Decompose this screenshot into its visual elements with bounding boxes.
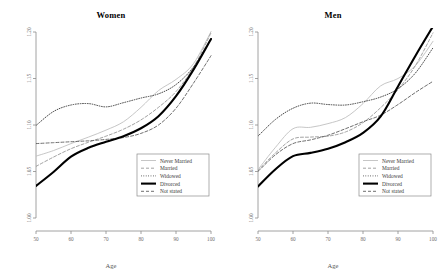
legend-label: Widowed bbox=[382, 173, 403, 179]
legend-label: Never Married bbox=[382, 158, 414, 164]
legend-label: Not stated bbox=[160, 188, 182, 194]
series-line bbox=[36, 56, 211, 144]
series-line bbox=[258, 33, 433, 171]
x-tick-label: 90 bbox=[173, 236, 179, 242]
legend-label: Married bbox=[160, 165, 178, 171]
x-tick-label: 50 bbox=[255, 236, 261, 242]
y-tick-label: 1.05 bbox=[248, 167, 254, 176]
legend-label: Widowed bbox=[160, 173, 181, 179]
legend-label: Married bbox=[382, 165, 400, 171]
y-axis: 1.001.051.101.151.20 bbox=[26, 27, 36, 222]
x-tick-label: 100 bbox=[207, 236, 215, 242]
x-tick-label: 60 bbox=[68, 236, 74, 242]
y-tick-label: 1.15 bbox=[26, 74, 32, 83]
legend-label: Divorced bbox=[382, 181, 402, 187]
x-axis: 5060708090100 bbox=[33, 231, 215, 242]
y-tick-label: 1.10 bbox=[26, 120, 32, 129]
x-tick-label: 80 bbox=[138, 236, 144, 242]
x-tick-label: 70 bbox=[103, 236, 109, 242]
x-axis: 5060708090100 bbox=[255, 231, 437, 242]
series-line bbox=[258, 48, 433, 136]
legend: Never MarriedMarriedWidowedDivorcedNot s… bbox=[137, 154, 209, 196]
y-tick-label: 1.15 bbox=[248, 74, 254, 83]
legend-label: Not stated bbox=[382, 188, 404, 194]
y-tick-label: 1.20 bbox=[26, 27, 32, 36]
legend-label: Divorced bbox=[160, 181, 180, 187]
y-axis: 1.001.051.101.151.20 bbox=[248, 27, 258, 222]
plot-canvas: 1.001.051.101.151.205060708090100Never M… bbox=[222, 0, 444, 275]
y-tick-label: 1.20 bbox=[248, 27, 254, 36]
plot-canvas: 1.001.051.101.151.205060708090100Never M… bbox=[0, 0, 222, 275]
x-tick-label: 50 bbox=[33, 236, 39, 242]
y-tick-label: 1.10 bbox=[248, 120, 254, 129]
series-line bbox=[258, 41, 433, 169]
legend: Never MarriedMarriedWidowedDivorcedNot s… bbox=[359, 154, 431, 196]
y-tick-label: 1.00 bbox=[26, 213, 32, 222]
x-axis-label: Age bbox=[0, 262, 222, 269]
x-tick-label: 70 bbox=[325, 236, 331, 242]
series-line bbox=[36, 33, 211, 166]
legend-label: Never Married bbox=[160, 158, 192, 164]
x-tick-label: 100 bbox=[429, 236, 437, 242]
panel-men: Men 1.001.051.101.151.205060708090100Nev… bbox=[222, 0, 444, 275]
figure-root: Women 1.001.051.101.151.205060708090100N… bbox=[0, 0, 444, 275]
y-tick-label: 1.00 bbox=[248, 213, 254, 222]
panel-women: Women 1.001.051.101.151.205060708090100N… bbox=[0, 0, 222, 275]
x-tick-label: 90 bbox=[395, 236, 401, 242]
x-axis-label: Age bbox=[222, 262, 444, 269]
x-tick-label: 60 bbox=[290, 236, 296, 242]
y-tick-label: 1.05 bbox=[26, 167, 32, 176]
x-tick-label: 80 bbox=[360, 236, 366, 242]
